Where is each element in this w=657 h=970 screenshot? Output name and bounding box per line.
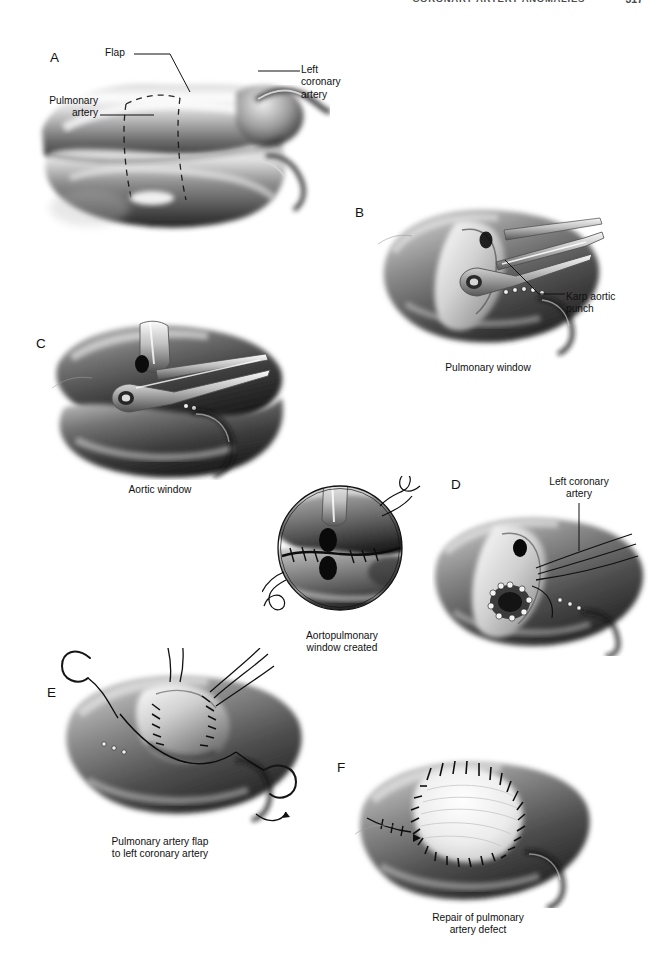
label-pulmonary-artery-a: Pulmonary artery (26, 95, 98, 120)
leader-karp-aortic-punch (503, 258, 567, 302)
illustration-panel-f (355, 748, 595, 908)
panel-letter-e: E (47, 686, 56, 700)
running-head-title: CORONARY ARTERY ANOMALIES (412, 0, 585, 4)
caption-panel-f: Repair of pulmonary artery defect (378, 912, 578, 937)
caption-panel-e: Pulmonary artery flap to left coronary a… (60, 836, 260, 861)
illustration-panel-c (52, 318, 288, 480)
panel-letter-b: B (355, 206, 364, 220)
leader-left-coronary-artery-a (258, 69, 302, 73)
illustration-panel-e (60, 648, 310, 828)
running-head: CORONARY ARTERY ANOMALIES 317 (0, 0, 657, 6)
caption-panel-b: Pulmonary window (388, 362, 588, 374)
panel-letter-c: C (36, 337, 46, 351)
label-left-coronary-artery-d: Left coronary artery (519, 476, 639, 501)
illustration-panel-d (432, 508, 648, 656)
leader-pulmonary-artery-a (100, 113, 156, 117)
illustration-inset-aortopulmonary-window (262, 476, 422, 628)
atlas-page: CORONARY ARTERY ANOMALIES 317 A (0, 0, 657, 970)
leader-flap (132, 52, 202, 98)
illustration-panel-b (378, 200, 608, 360)
page-number: 317 (625, 0, 643, 5)
caption-panel-c: Aortic window (60, 484, 260, 496)
panel-letter-f: F (337, 761, 345, 775)
label-left-coronary-artery-a: Left coronary artery (301, 64, 341, 101)
label-flap: Flap (105, 47, 125, 59)
leader-left-coronary-artery-d (576, 503, 582, 553)
label-karp-aortic-punch: Karp aortic punch (566, 291, 615, 316)
panel-letter-d: D (451, 478, 461, 492)
